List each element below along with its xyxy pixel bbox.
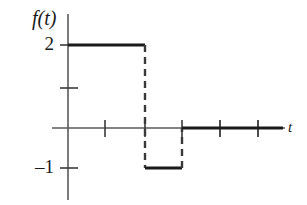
y-tick-label-2: 2 xyxy=(28,34,54,53)
x-axis-label: t xyxy=(288,120,292,135)
function-plot-figure: f(t) t 2 –1 xyxy=(0,0,307,205)
y-axis-label: f(t) xyxy=(32,8,56,28)
y-tick-label-neg1: –1 xyxy=(22,157,54,176)
